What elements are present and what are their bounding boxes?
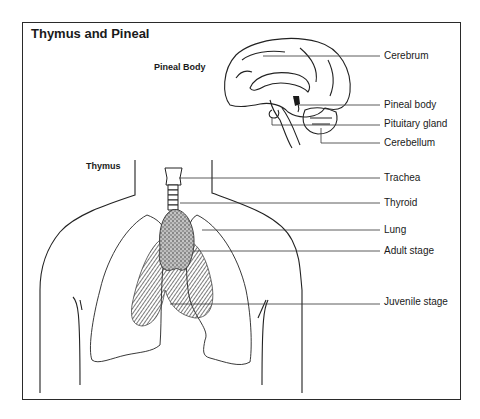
anatomy-illustration [0, 0, 480, 419]
label-cerebellum: Cerebellum [384, 137, 435, 148]
brain-leader-lines [263, 56, 380, 143]
label-pineal-body: Pineal body [384, 99, 436, 110]
label-trachea: Trachea [384, 172, 420, 183]
label-cerebrum: Cerebrum [384, 50, 428, 61]
label-pituitary-gland: Pituitary gland [384, 118, 447, 129]
label-adult-stage: Adult stage [384, 245, 434, 256]
label-juvenile-stage: Juvenile stage [384, 296, 448, 307]
label-thyroid: Thyroid [384, 197, 417, 208]
trachea-drawing [165, 168, 182, 210]
pineal-body-shape [293, 96, 300, 106]
adult-thymus-shape [159, 209, 194, 270]
label-lung: Lung [384, 224, 406, 235]
brain-drawing [225, 38, 351, 148]
